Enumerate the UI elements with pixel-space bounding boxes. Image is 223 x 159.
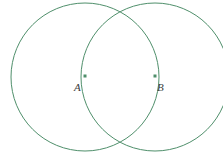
point-label-b: B [157,82,164,93]
point-label-a: A [74,82,81,93]
geometry-diagram [0,0,223,159]
point-marker-a [84,75,87,78]
figure-canvas: A B [0,0,223,159]
point-marker-b [154,75,157,78]
circle-b [81,3,223,151]
